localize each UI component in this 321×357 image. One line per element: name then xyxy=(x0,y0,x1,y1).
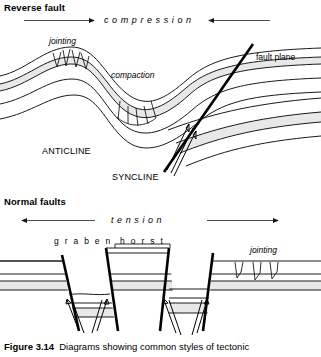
tension-label: tension xyxy=(111,215,165,225)
horst-label: h o r s t xyxy=(120,236,165,246)
jointing-label-right-block: jointing xyxy=(250,245,277,255)
graben-label: g r a b e n xyxy=(54,236,112,246)
folded-strata xyxy=(0,47,321,148)
fault-plane-line xyxy=(164,44,253,172)
reverse-fault-heading: Reverse fault xyxy=(4,2,65,13)
compaction-label: compaction xyxy=(111,70,154,80)
jointing-label-anticline: jointing xyxy=(49,36,76,46)
figure-3-14: Reverse fault compression jointing compa… xyxy=(0,0,321,357)
normal-faults-heading: Normal faults xyxy=(4,196,66,207)
figure-caption-number: Figure 3.14 xyxy=(4,341,54,352)
figure-caption: Figure 3.14Diagrams showing common style… xyxy=(4,341,321,353)
figure-caption-text: Diagrams showing common styles of tecton… xyxy=(59,341,249,352)
right-graben-strata xyxy=(163,289,218,313)
syncline-label: SYNCLINE xyxy=(112,172,159,182)
fault-plane-label: fault plane xyxy=(256,52,295,62)
jointing-right-block xyxy=(235,262,278,280)
compression-label: compression xyxy=(104,15,195,25)
anticline-label: ANTICLINE xyxy=(42,146,91,156)
right-block-strata xyxy=(205,261,321,290)
